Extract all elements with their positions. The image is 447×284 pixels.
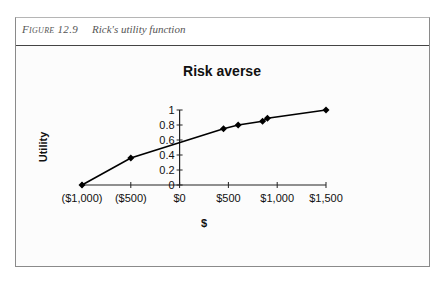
- x-tick-label: ($1,000): [62, 192, 103, 204]
- chart-title: Risk averse: [183, 63, 261, 79]
- y-tick-label: 0.2: [159, 164, 174, 176]
- y-tick-label: 0.8: [159, 119, 174, 131]
- y-tick-label: 0: [168, 179, 174, 191]
- utility-chart: Risk averse Utility $ ($1,000)($500)$0$5…: [0, 0, 447, 284]
- data-series: [79, 107, 330, 189]
- data-point-marker: [79, 182, 86, 189]
- axes: ($1,000)($500)$0$500$1,000$1,50000.20.40…: [62, 104, 343, 204]
- x-tick-label: ($500): [115, 192, 147, 204]
- data-point-marker: [220, 125, 227, 132]
- x-tick-label: $1,000: [260, 192, 294, 204]
- x-tick-label: $1,500: [309, 192, 343, 204]
- data-point-marker: [127, 155, 134, 162]
- series-line: [82, 110, 326, 185]
- data-point-marker: [235, 122, 242, 129]
- x-tick-label: $500: [216, 192, 240, 204]
- x-tick-label: $0: [173, 192, 185, 204]
- y-axis-label: Utility: [37, 131, 49, 162]
- x-axis-label: $: [201, 217, 207, 229]
- data-point-marker: [323, 107, 330, 114]
- y-tick-label: 1: [168, 104, 174, 116]
- y-tick-label: 0.4: [159, 149, 174, 161]
